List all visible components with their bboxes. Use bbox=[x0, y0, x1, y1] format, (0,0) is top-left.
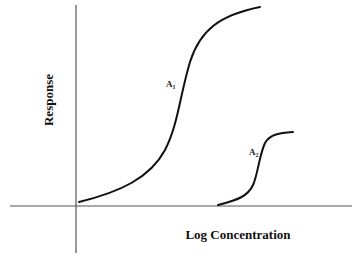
curve-a1 bbox=[79, 7, 260, 202]
x-axis-title: Log Concentration bbox=[185, 227, 291, 242]
curve-a1-label: A1 bbox=[166, 79, 176, 90]
dose-response-chart: A1 A2 Response Log Concentration bbox=[0, 0, 356, 263]
y-axis-title: Response bbox=[41, 74, 56, 126]
curve-a2-label: A2 bbox=[249, 147, 259, 158]
curve-a2 bbox=[218, 132, 293, 205]
